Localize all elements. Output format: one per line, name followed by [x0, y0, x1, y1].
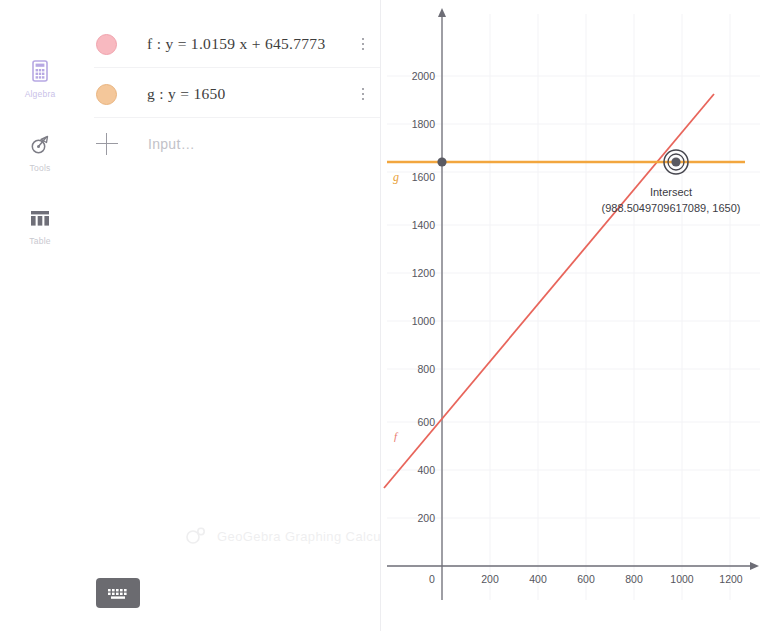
algebra-row-f[interactable]: f : y = 1.0159 x + 645.7773 — [80, 20, 380, 68]
x-tick: 600 — [577, 573, 595, 585]
x-tick: 1000 — [670, 573, 694, 585]
compass-icon — [27, 132, 53, 158]
sidebar-item-table-label: Table — [29, 236, 50, 246]
geogebra-watermark: GeoGebra Graphing Calculator — [185, 525, 408, 547]
y-tick: 400 — [417, 464, 435, 476]
y-tick: 1600 — [412, 171, 436, 183]
color-marble-f[interactable] — [96, 34, 117, 55]
x-tick: 400 — [529, 573, 547, 585]
point-on-g-axis[interactable] — [437, 157, 446, 166]
equation-f: f : y = 1.0159 x + 645.7773 — [147, 35, 325, 53]
algebra-row-g[interactable]: g : y = 1650 — [80, 70, 380, 118]
x-axis-arrow — [750, 562, 759, 570]
x-tick: 1200 — [719, 573, 743, 585]
calculator-icon — [27, 58, 53, 84]
algebra-input-row[interactable]: Input… — [80, 120, 380, 168]
add-input-icon[interactable] — [96, 133, 118, 155]
intersect-annotation-title: Intersect — [650, 186, 692, 198]
y-tick: 1800 — [412, 118, 436, 130]
series-label-g: g — [393, 170, 399, 184]
table-icon — [27, 205, 53, 231]
sidebar-item-algebra-label: Algebra — [25, 89, 56, 99]
sidebar-item-table[interactable]: Table — [0, 205, 80, 246]
axes — [387, 8, 759, 600]
y-tick: 1200 — [412, 267, 436, 279]
graphics-view[interactable]: 0 200 400 600 800 1000 1200 200 400 600 … — [381, 0, 760, 631]
keyboard-icon — [105, 585, 131, 602]
intersect-point[interactable] — [664, 150, 688, 174]
y-axis-arrow — [438, 8, 446, 17]
row-divider — [94, 67, 380, 68]
algebra-panel: f : y = 1.0159 x + 645.7773 g : y = 1650… — [80, 0, 381, 631]
x-tick: 0 — [429, 573, 435, 585]
grid-lines — [387, 14, 760, 600]
series-line-f[interactable] — [384, 94, 714, 488]
intersect-annotation-coords: (988.5049709617089, 1650) — [602, 202, 741, 214]
y-axis-tick-labels: 200 400 600 800 1000 1200 1400 1600 1800… — [412, 70, 436, 524]
sidebar-item-tools[interactable]: Tools — [0, 132, 80, 173]
row-menu-f-icon[interactable] — [356, 35, 370, 53]
y-tick: 2000 — [412, 70, 436, 82]
graph-canvas[interactable]: 0 200 400 600 800 1000 1200 200 400 600 … — [381, 0, 760, 631]
geogebra-logo-icon — [185, 525, 207, 547]
y-tick: 200 — [417, 512, 435, 524]
x-axis-tick-labels: 0 200 400 600 800 1000 1200 — [429, 573, 743, 585]
y-tick: 1000 — [412, 315, 436, 327]
left-rail: Algebra Tools Table — [0, 0, 80, 631]
x-tick: 800 — [625, 573, 643, 585]
y-tick: 800 — [417, 363, 435, 375]
algebra-input-placeholder[interactable]: Input… — [148, 136, 195, 152]
watermark-text: GeoGebra Graphing Calculator — [217, 529, 408, 544]
row-divider — [94, 117, 380, 118]
row-menu-g-icon[interactable] — [356, 85, 370, 103]
sidebar-item-tools-label: Tools — [30, 163, 51, 173]
color-marble-g[interactable] — [96, 84, 117, 105]
sidebar-item-algebra[interactable]: Algebra — [0, 58, 80, 99]
equation-g: g : y = 1650 — [147, 85, 226, 103]
y-tick: 600 — [417, 416, 435, 428]
x-tick: 200 — [481, 573, 499, 585]
keyboard-toggle-button[interactable] — [96, 578, 140, 608]
series-label-f: f — [394, 430, 399, 442]
y-tick: 1400 — [412, 219, 436, 231]
